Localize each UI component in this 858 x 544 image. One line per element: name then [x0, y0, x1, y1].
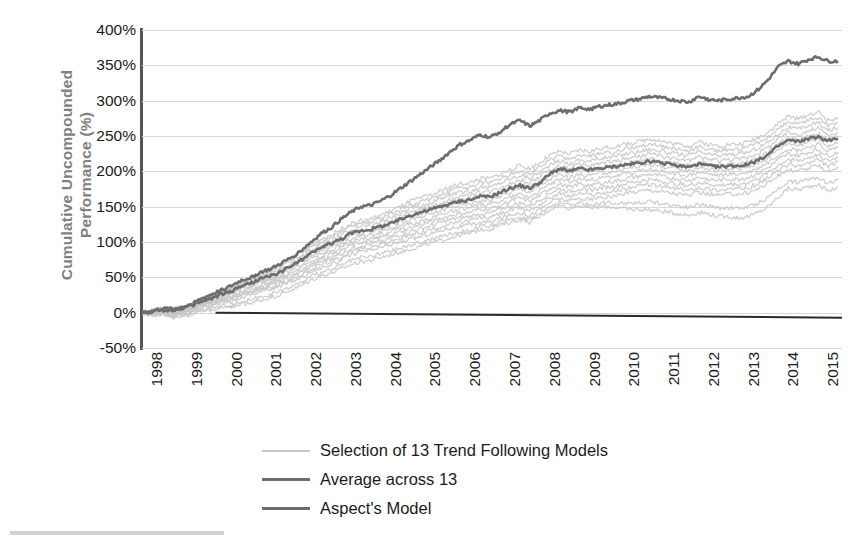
chart-legend: Selection of 13 Trend Following ModelsAv…: [262, 436, 782, 523]
x-axis-tick-labels: 1998199920002001200220032004200520062007…: [142, 352, 842, 438]
x-tick-label: 2012: [705, 352, 723, 386]
x-tick-label: 2011: [665, 352, 683, 385]
legend-swatch: [262, 507, 310, 510]
x-tick-label: 2009: [586, 352, 604, 386]
x-tick-label: 2002: [307, 352, 325, 386]
chart-lines: [142, 30, 842, 348]
chart-figure: Cumulative Uncompounded Performance (%) …: [0, 0, 858, 544]
legend-item: Average across 13: [262, 465, 782, 494]
x-tick-label: 2010: [625, 352, 643, 386]
x-tick-label: 2014: [784, 352, 802, 386]
x-tick-label: 2013: [745, 352, 763, 386]
legend-label: Aspect's Model: [320, 499, 431, 518]
y-tick-label: 0%: [52, 305, 136, 321]
y-axis-tick-labels: 400%350%300%250%200%150%100%50%0%-50%: [52, 0, 136, 544]
y-tick-label: 300%: [52, 93, 136, 109]
model-line: [142, 183, 838, 319]
plot-area: [142, 30, 842, 348]
y-tick-label: 250%: [52, 128, 136, 144]
x-tick-label: 2003: [347, 352, 365, 386]
x-tick-label: 2005: [426, 352, 444, 386]
y-tick-label: 50%: [52, 269, 136, 285]
y-tick-label: 350%: [52, 57, 136, 73]
model-line: [142, 177, 838, 318]
legend-item: Aspect's Model: [262, 494, 782, 523]
x-tick-label: 1999: [188, 352, 206, 386]
y-tick-label: 400%: [52, 22, 136, 38]
caption-rule: [10, 531, 224, 535]
x-tick-label: 1998: [148, 352, 166, 386]
legend-item: Selection of 13 Trend Following Models: [262, 436, 782, 465]
legend-label: Average across 13: [320, 470, 457, 489]
x-tick-label: 2007: [506, 352, 524, 386]
x-tick-label: 2015: [824, 352, 842, 386]
x-tick-label: 2004: [387, 352, 405, 386]
gridline: [142, 348, 842, 349]
y-tick-label: 100%: [52, 234, 136, 250]
x-tick-label: 2008: [546, 352, 564, 386]
legend-label: Selection of 13 Trend Following Models: [320, 441, 608, 460]
y-tick-label: -50%: [52, 340, 136, 356]
x-tick-label: 2000: [228, 352, 246, 386]
y-tick-label: 200%: [52, 163, 136, 179]
zero-reference-line: [216, 313, 842, 318]
legend-swatch: [262, 478, 310, 481]
x-tick-label: 2006: [466, 352, 484, 386]
y-tick-label: 150%: [52, 199, 136, 215]
x-tick-label: 2001: [267, 352, 285, 386]
legend-swatch: [262, 450, 310, 452]
